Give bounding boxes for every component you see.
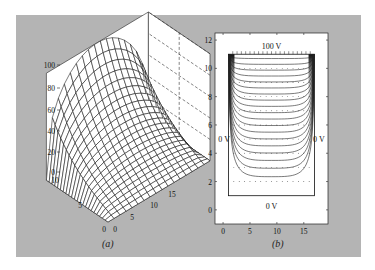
svg-text:0 V: 0 V	[218, 135, 230, 144]
svg-text:0 V: 0 V	[266, 202, 278, 211]
caption-a: (a)	[102, 238, 114, 249]
svg-text:6: 6	[208, 121, 212, 130]
svg-text:10: 10	[273, 227, 281, 236]
contour-axes: 024681012051015100 V0 V0 V0 V	[205, 33, 329, 236]
svg-text:0: 0	[208, 206, 212, 215]
svg-text:15: 15	[300, 227, 308, 236]
svg-text:12: 12	[205, 36, 213, 45]
svg-text:0 V: 0 V	[313, 135, 325, 144]
svg-text:100 V: 100 V	[262, 42, 282, 51]
svg-text:4: 4	[208, 149, 212, 158]
svg-text:10: 10	[205, 64, 213, 73]
svg-text:8: 8	[208, 93, 212, 102]
svg-text:5: 5	[248, 227, 252, 236]
svg-text:2: 2	[208, 178, 212, 187]
svg-text:0: 0	[221, 227, 225, 236]
contour-plot-b: 024681012051015100 V0 V0 V0 V	[0, 0, 375, 270]
caption-b: (b)	[272, 238, 284, 249]
